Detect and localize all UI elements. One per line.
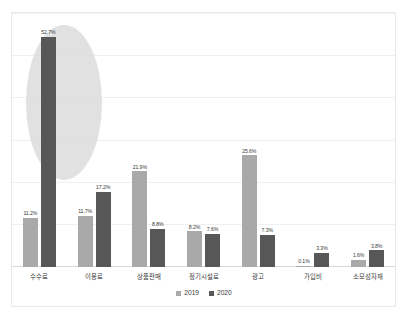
- bar-column: 7.6%: [205, 13, 220, 267]
- bar-value-label: 1.6%: [353, 253, 364, 258]
- bar-column: 0.1%: [296, 13, 311, 267]
- bar-value-label: 7.3%: [262, 228, 273, 233]
- bar-column: 21.9%: [132, 13, 147, 267]
- legend-item-2019[interactable]: 2019: [176, 290, 199, 297]
- bar-column: 8.2%: [187, 13, 202, 267]
- bar: [41, 37, 56, 267]
- x-axis-label: 광고: [231, 269, 286, 285]
- bar-value-label: 17.2%: [96, 185, 110, 190]
- bar-value-label: 52.7%: [41, 30, 55, 35]
- bar-value-label: 11.2%: [23, 211, 37, 216]
- bar-column: 11.7%: [78, 13, 93, 267]
- bar-column: 11.2%: [23, 13, 38, 267]
- bar-group: 21.9%8.8%: [121, 13, 176, 267]
- bar: [132, 171, 147, 267]
- bar-value-label: 0.1%: [298, 259, 309, 264]
- bar-group: 25.6%7.3%: [231, 13, 286, 267]
- legend-label: 2019: [184, 290, 199, 297]
- bar-value-label: 7.6%: [207, 227, 218, 232]
- bar-column: 3.3%: [314, 13, 329, 267]
- chart-legend: 20192020: [0, 290, 408, 297]
- bar: [242, 155, 257, 267]
- bar: [187, 231, 202, 267]
- bar: [205, 234, 220, 267]
- bar-group: 11.7%17.2%: [67, 13, 122, 267]
- x-axis-label: 이용료: [67, 269, 122, 285]
- legend-item-2020[interactable]: 2020: [209, 290, 232, 297]
- bar-value-label: 21.9%: [133, 165, 147, 170]
- bar: [78, 216, 93, 267]
- x-axis-label: 상품판매: [121, 269, 176, 285]
- bar-column: 1.6%: [351, 13, 366, 267]
- bar-value-label: 3.3%: [316, 246, 327, 251]
- x-axis-label: 정기시설료: [176, 269, 231, 285]
- bar-value-label: 25.6%: [242, 149, 256, 154]
- bar: [314, 253, 329, 267]
- bar-value-label: 3.8%: [371, 244, 382, 249]
- legend-swatch-icon: [209, 291, 214, 296]
- bar-column: 25.6%: [242, 13, 257, 267]
- bar-column: 52.7%: [41, 13, 56, 267]
- bar: [296, 266, 311, 267]
- bar-value-label: 11.7%: [78, 209, 92, 214]
- bar-group: 8.2%7.6%: [176, 13, 231, 267]
- x-axis-category-labels: 수수료이용료상품판매정기시설료광고가입비소모성자재: [12, 269, 395, 285]
- bar-groups: 11.2%52.7%11.7%17.2%21.9%8.8%8.2%7.6%25.…: [12, 13, 395, 267]
- bar: [96, 192, 111, 267]
- x-axis-label: 가입비: [286, 269, 341, 285]
- bar-group: 1.6%3.8%: [340, 13, 395, 267]
- plot-area: 11.2%52.7%11.7%17.2%21.9%8.8%8.2%7.6%25.…: [12, 13, 395, 267]
- legend-label: 2020: [217, 290, 232, 297]
- bar: [351, 260, 366, 267]
- bar-group: 0.1%3.3%: [286, 13, 341, 267]
- x-axis-label: 소모성자재: [340, 269, 395, 285]
- bar: [369, 250, 384, 267]
- bar-value-label: 8.8%: [152, 222, 163, 227]
- bar-column: 8.8%: [150, 13, 165, 267]
- legend-swatch-icon: [176, 291, 181, 296]
- bar-column: 7.3%: [260, 13, 275, 267]
- bar-value-label: 8.2%: [189, 225, 200, 230]
- bar-column: 3.8%: [369, 13, 384, 267]
- bar-column: 17.2%: [96, 13, 111, 267]
- bar: [150, 229, 165, 267]
- x-axis-label: 수수료: [12, 269, 67, 285]
- screenshot-root: 11.2%52.7%11.7%17.2%21.9%8.8%8.2%7.6%25.…: [0, 0, 408, 319]
- bar: [260, 235, 275, 267]
- bar-group: 11.2%52.7%: [12, 13, 67, 267]
- bar: [23, 218, 38, 267]
